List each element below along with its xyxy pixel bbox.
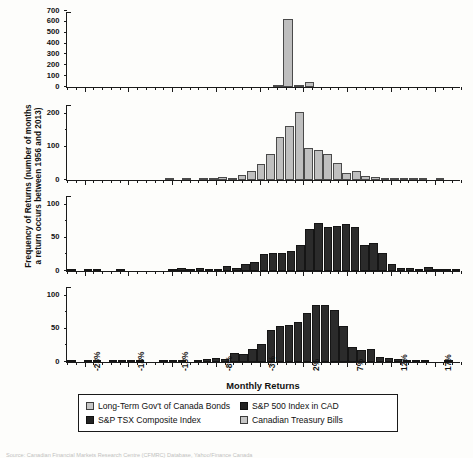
source-note: Source: Canadian Financial Markets Resea… bbox=[6, 452, 252, 458]
y-tick-label: 100 bbox=[47, 141, 60, 150]
x-tick bbox=[155, 271, 156, 274]
x-tick bbox=[155, 180, 156, 183]
x-tick bbox=[461, 87, 462, 90]
x-tick bbox=[93, 271, 94, 274]
legend-item[interactable]: S&P 500 Index in CAD bbox=[236, 401, 390, 411]
bar bbox=[303, 313, 311, 362]
legend-swatch bbox=[240, 402, 248, 410]
x-tick bbox=[225, 87, 226, 90]
x-tick bbox=[260, 180, 261, 185]
x-tick bbox=[408, 180, 409, 183]
y-tick-label: 50 bbox=[51, 323, 59, 332]
x-tick bbox=[146, 271, 147, 274]
y-tick-label: 100 bbox=[47, 71, 60, 80]
x-tick bbox=[120, 87, 121, 90]
bar bbox=[285, 325, 293, 362]
bar bbox=[283, 19, 293, 87]
x-tick bbox=[417, 271, 418, 274]
bar bbox=[339, 326, 347, 362]
bar bbox=[269, 253, 277, 271]
bar bbox=[260, 254, 268, 271]
bar-series-sp500 bbox=[67, 196, 460, 271]
legend-label: S&P 500 Index in CAD bbox=[252, 401, 339, 411]
x-tick bbox=[85, 271, 86, 276]
x-tick bbox=[426, 87, 427, 90]
y-tick-label: 0 bbox=[55, 266, 59, 275]
legend-swatch bbox=[240, 416, 248, 424]
panel-tbills: 0100200300400500600700 bbox=[66, 12, 460, 88]
bar bbox=[351, 227, 359, 271]
x-tick bbox=[382, 271, 383, 274]
x-tick bbox=[216, 271, 217, 276]
x-tick bbox=[85, 180, 86, 185]
x-tick bbox=[338, 180, 339, 183]
x-tick bbox=[408, 87, 409, 90]
x-tick-label: 2% bbox=[311, 359, 321, 371]
x-tick bbox=[67, 180, 68, 183]
x-tick bbox=[373, 271, 374, 274]
x-tick-label: 12% bbox=[399, 354, 409, 371]
x-tick-rail bbox=[67, 180, 460, 185]
y-tick-label: 700 bbox=[47, 6, 60, 15]
x-tick bbox=[435, 87, 436, 92]
x-tick bbox=[400, 87, 401, 90]
legend-item[interactable]: S&P TSX Composite Index bbox=[86, 415, 236, 425]
x-tick bbox=[111, 271, 112, 274]
x-tick bbox=[408, 271, 409, 274]
legend-label: Long-Term Gov't of Canada Bonds bbox=[98, 401, 230, 411]
x-tick bbox=[225, 180, 226, 183]
x-tick bbox=[242, 271, 243, 274]
x-tick bbox=[365, 271, 366, 274]
x-tick bbox=[321, 180, 322, 183]
y-tick-label: 0 bbox=[55, 82, 59, 91]
legend-item[interactable]: Long-Term Gov't of Canada Bonds bbox=[86, 401, 236, 411]
x-tick bbox=[198, 87, 199, 90]
x-tick bbox=[365, 87, 366, 90]
x-tick bbox=[216, 87, 217, 92]
y-tick-label: 200 bbox=[47, 108, 60, 117]
bar bbox=[367, 349, 375, 362]
x-tick bbox=[260, 87, 261, 92]
x-tick bbox=[338, 87, 339, 90]
x-tick bbox=[435, 180, 436, 185]
bar bbox=[287, 251, 295, 271]
x-tick bbox=[391, 271, 392, 276]
x-tick bbox=[286, 87, 287, 90]
x-tick bbox=[295, 271, 296, 274]
y-axis-title: Frequency of Returns (number of months a… bbox=[24, 26, 44, 346]
x-tick bbox=[417, 87, 418, 90]
legend-swatch bbox=[86, 416, 94, 424]
bar bbox=[333, 226, 341, 271]
x-tick bbox=[286, 271, 287, 274]
x-tick bbox=[303, 180, 304, 185]
bar bbox=[296, 245, 304, 271]
x-tick bbox=[137, 87, 138, 90]
x-tick bbox=[137, 271, 138, 274]
x-tick bbox=[312, 87, 313, 90]
legend-item[interactable]: Canadian Treasury Bills bbox=[236, 415, 390, 425]
x-tick bbox=[356, 271, 357, 274]
bar bbox=[323, 154, 332, 180]
x-tick bbox=[356, 180, 357, 183]
x-tick bbox=[391, 87, 392, 92]
bar bbox=[295, 112, 304, 180]
x-tick bbox=[85, 87, 86, 92]
x-tick bbox=[155, 87, 156, 90]
x-tick bbox=[435, 271, 436, 276]
x-tick-label: -8% bbox=[224, 356, 234, 371]
x-tick bbox=[76, 271, 77, 274]
x-tick bbox=[443, 180, 444, 183]
x-tick bbox=[120, 271, 121, 274]
y-tick-label: 0 bbox=[55, 175, 59, 184]
x-tick bbox=[242, 87, 243, 90]
y-tick-label: 400 bbox=[47, 38, 60, 47]
x-tick-label: 7% bbox=[355, 359, 365, 371]
bar-series-tbills bbox=[67, 12, 460, 87]
x-tick bbox=[391, 180, 392, 185]
x-tick-label: 17% bbox=[443, 354, 453, 371]
x-tick bbox=[128, 180, 129, 185]
x-tick bbox=[400, 180, 401, 183]
x-tick bbox=[321, 271, 322, 274]
x-tick bbox=[251, 180, 252, 183]
x-tick bbox=[172, 180, 173, 185]
